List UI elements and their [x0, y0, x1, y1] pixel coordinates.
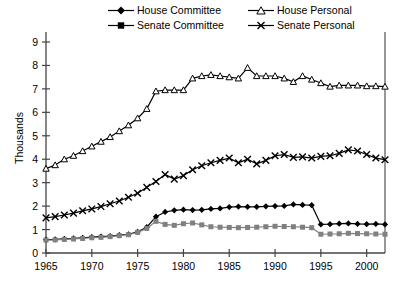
svg-text:1980: 1980: [172, 260, 196, 272]
svg-text:2: 2: [32, 200, 38, 212]
svg-text:5: 5: [32, 130, 38, 142]
axis-lines: [46, 32, 385, 253]
svg-text:7: 7: [32, 83, 38, 95]
svg-text:9: 9: [32, 36, 38, 48]
svg-text:4: 4: [32, 153, 38, 165]
svg-text:1965: 1965: [34, 260, 58, 272]
series-senate-committee: [44, 219, 388, 243]
svg-text:1: 1: [32, 224, 38, 236]
svg-text:1990: 1990: [263, 260, 287, 272]
svg-text:0: 0: [32, 247, 38, 259]
svg-text:1975: 1975: [126, 260, 150, 272]
svg-text:1995: 1995: [309, 260, 333, 272]
series-senate-personal: [43, 147, 389, 222]
chart-figure: House Committee House Personal Senate Co…: [0, 0, 404, 281]
data-series-layer: [43, 65, 389, 243]
svg-text:6: 6: [32, 106, 38, 118]
axis-ticks: [42, 42, 367, 257]
chart-plot-area: 0123456789196519701975198019851990199520…: [0, 0, 404, 281]
svg-text:8: 8: [32, 59, 38, 71]
svg-text:1985: 1985: [218, 260, 242, 272]
svg-text:2000: 2000: [355, 260, 379, 272]
svg-text:1970: 1970: [80, 260, 104, 272]
svg-text:3: 3: [32, 177, 38, 189]
